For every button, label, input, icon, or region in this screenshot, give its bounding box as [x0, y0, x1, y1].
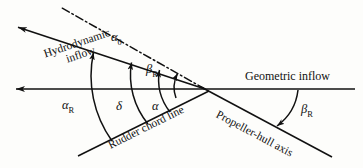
- label-angle-delta: δ: [116, 99, 122, 113]
- label-angle-beta-R-right: βR: [301, 103, 313, 118]
- beta-R-upper-subscript: R: [152, 69, 158, 79]
- label-angle-alpha0: α0: [111, 31, 122, 46]
- arc-beta-R-upper: [174, 74, 177, 99]
- arc-beta-R-right: [277, 90, 298, 126]
- label-angle-alpha-R: αR: [62, 99, 74, 114]
- label-angle-beta-R-upper: βR: [146, 63, 158, 78]
- figure-canvas: Hydrodynamic inflow Geometric inflow Rud…: [0, 0, 363, 168]
- alpha0-subscript: 0: [118, 37, 122, 47]
- label-angle-alpha: α: [152, 100, 159, 113]
- beta-R-right-subscript: R: [307, 109, 313, 119]
- diagram-vector-layer: [0, 0, 363, 168]
- label-geometric-inflow: Geometric inflow: [245, 70, 330, 83]
- arc-alpha-R: [91, 53, 112, 142]
- alpha-R-subscript: R: [69, 105, 75, 115]
